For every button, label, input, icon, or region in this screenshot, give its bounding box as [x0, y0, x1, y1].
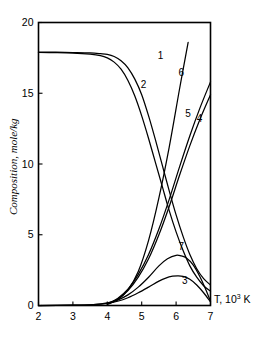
axes-frame: [39, 23, 211, 306]
curve-1: [39, 52, 211, 285]
y-tick-label-5: 5: [28, 228, 34, 240]
curve-label-2: 2: [141, 79, 147, 90]
curve-label-4: 4: [197, 113, 203, 124]
y-axis-title: Composition, mole/kg: [7, 118, 19, 215]
y-tick-label-10: 10: [22, 158, 34, 170]
composition-vs-temperature-chart: 234567 05101520 1234567 Composition, mol…: [0, 0, 255, 341]
plot-frame: [39, 23, 211, 306]
y-tick-label-15: 15: [22, 87, 34, 99]
curve-6: [107, 42, 188, 304]
curve-label-6: 6: [178, 67, 184, 78]
y-axis-ticks: 05101520: [22, 16, 43, 311]
chart-figure: 234567 05101520 1234567 Composition, mol…: [0, 0, 255, 341]
y-tick-label-0: 0: [28, 299, 34, 311]
curve-2: [39, 53, 211, 292]
x-axis-ticks: 234567: [36, 302, 214, 322]
x-tick-label-5: 5: [139, 310, 145, 322]
curve-label-1: 1: [158, 50, 164, 61]
curve-label-3: 3: [182, 275, 188, 286]
x-axis-title: T, 103 K: [214, 293, 251, 305]
x-tick-label-3: 3: [70, 310, 76, 322]
curve-label-5: 5: [185, 108, 191, 119]
x-tick-label-2: 2: [36, 310, 42, 322]
curve-5: [107, 82, 210, 304]
curve-label-7: 7: [178, 241, 184, 252]
x-tick-label-6: 6: [173, 310, 179, 322]
y-tick-label-20: 20: [22, 16, 34, 28]
curves-group: [39, 42, 211, 305]
x-tick-label-4: 4: [104, 310, 110, 322]
x-tick-label-7: 7: [208, 310, 214, 322]
